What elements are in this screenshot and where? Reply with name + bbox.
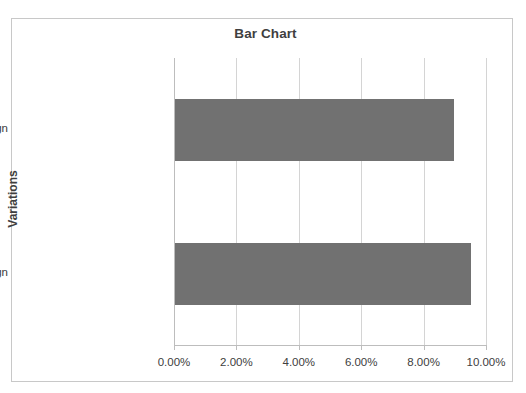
- x-tick-mark: [299, 346, 300, 350]
- x-tick-label: 10.00%: [451, 356, 521, 368]
- gridline-x-1000: [486, 58, 487, 346]
- category-label: New web design: [0, 266, 8, 278]
- bar-chart-figure: Bar Chart Variations 0.00%2.00%4.00%6.00…: [0, 0, 526, 393]
- x-tick-label: 2.00%: [201, 356, 271, 368]
- x-tick-mark: [424, 346, 425, 350]
- x-tick-label: 0.00%: [139, 356, 209, 368]
- x-tick-mark: [486, 346, 487, 350]
- x-tick-label: 8.00%: [389, 356, 459, 368]
- x-tick-mark: [361, 346, 362, 350]
- y-axis-title: Variations: [0, 139, 26, 259]
- x-tick-label: 6.00%: [326, 356, 396, 368]
- x-axis-line: [174, 345, 487, 346]
- x-tick-label: 4.00%: [264, 356, 334, 368]
- chart-title: Bar Chart: [163, 23, 368, 45]
- x-tick-mark: [174, 346, 175, 350]
- bar[interactable]: [175, 99, 454, 161]
- category-label: Original web design: [0, 122, 8, 134]
- bar[interactable]: [175, 243, 471, 305]
- x-tick-mark: [236, 346, 237, 350]
